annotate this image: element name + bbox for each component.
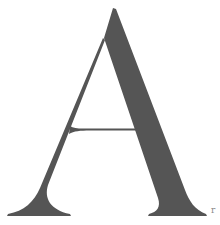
serif-letter-a-icon: [0, 0, 220, 225]
glyph-canvas: A r: [0, 0, 220, 225]
crossbar: [69, 126, 140, 134]
corner-mark: r: [211, 206, 215, 215]
thin-stem: [7, 38, 105, 216]
thick-stem: [104, 8, 207, 216]
